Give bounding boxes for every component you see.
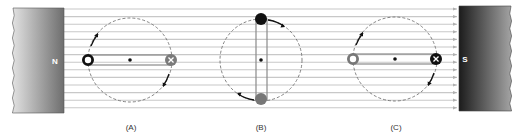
south-magnet: S [459, 6, 512, 111]
panel-label: (A) [126, 123, 137, 132]
south-pole-label: S [462, 55, 468, 64]
field-arrow-icon [453, 61, 457, 64]
north-magnet: N [12, 8, 64, 113]
conductor-icon [255, 13, 267, 25]
conductor-left [83, 55, 92, 64]
axis-dot [128, 58, 132, 62]
conductor-top [255, 13, 267, 25]
panel-label: (B) [256, 123, 267, 132]
conductor-right [430, 53, 442, 65]
panel-b: (B) [220, 13, 302, 132]
conductor-bottom [255, 93, 267, 105]
axis-dot [259, 58, 263, 62]
field-arrow-icon [453, 53, 457, 56]
panel-label: (C) [390, 123, 401, 132]
conductor-right [165, 54, 177, 66]
field-arrow-icon [453, 91, 457, 94]
field-arrow-icon [453, 45, 457, 48]
field-arrow-icon [453, 83, 457, 86]
rotation-panels: (A)(B)(C) [83, 13, 442, 132]
axis-dot [393, 57, 397, 61]
current-out-icon [348, 54, 357, 63]
field-arrow-icon [453, 76, 457, 79]
field-arrow-icon [453, 30, 457, 33]
generator-rotation-diagram: N S (A)(B)(C) [0, 0, 528, 139]
field-arrow-icon [453, 106, 457, 109]
conductor-left [348, 54, 357, 63]
field-arrow-icon [453, 99, 457, 102]
field-arrow-icon [453, 15, 457, 18]
north-pole-label: N [52, 57, 58, 66]
field-arrow-icon [453, 68, 457, 71]
field-arrow-icon [453, 23, 457, 26]
current-out-icon [83, 55, 92, 64]
conductor-icon [255, 93, 267, 105]
field-arrow-icon [453, 7, 457, 10]
panel-c: (C) [348, 17, 442, 132]
field-arrow-icon [453, 38, 457, 41]
panel-a: (A) [83, 18, 177, 132]
